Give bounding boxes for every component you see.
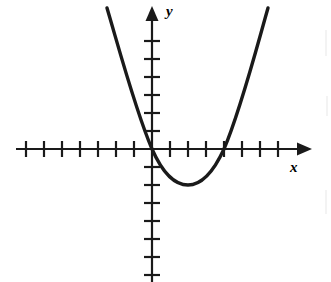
x-axis bbox=[16, 141, 312, 157]
coordinate-plane-svg bbox=[0, 0, 331, 282]
graph-figure: y x bbox=[0, 0, 331, 282]
scan-artifact bbox=[325, 30, 327, 56]
scan-artifact bbox=[326, 96, 328, 116]
y-axis-label: y bbox=[166, 4, 173, 19]
x-axis-arrowhead bbox=[297, 143, 312, 156]
scan-artifact bbox=[325, 190, 327, 214]
parabola-curve bbox=[107, 8, 268, 185]
y-axis bbox=[144, 6, 160, 282]
x-axis-label: x bbox=[290, 160, 298, 175]
y-axis-arrowhead bbox=[146, 6, 159, 21]
